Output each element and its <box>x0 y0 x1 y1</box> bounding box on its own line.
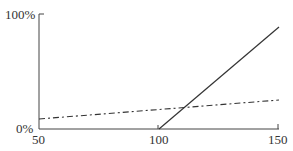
x-label-50: 50 <box>32 133 45 146</box>
x-label-150: 150 <box>268 133 288 146</box>
chart-plot <box>0 0 293 151</box>
series-dash-dot <box>39 100 279 119</box>
series-solid <box>159 27 279 129</box>
y-label-0: 0% <box>16 122 33 135</box>
x-label-100: 100 <box>149 133 169 146</box>
y-label-100: 100% <box>5 8 35 21</box>
